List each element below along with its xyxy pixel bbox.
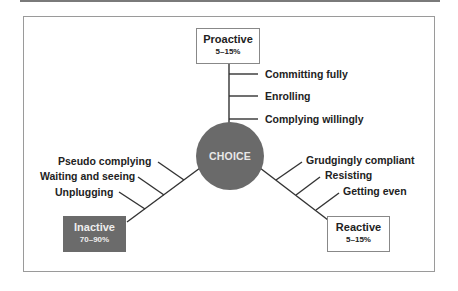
inactive-item: Waiting and seeing [40, 170, 135, 182]
inactive-percent: 70–90% [64, 234, 125, 245]
proactive-item: Enrolling [265, 90, 311, 102]
proactive-item: Committing fully [265, 68, 348, 80]
reactive-percent: 5–15% [328, 234, 389, 245]
inactive-box: Inactive 70–90% [63, 216, 126, 252]
reactive-title: Reactive [328, 221, 389, 234]
reactive-item: Getting even [343, 185, 407, 197]
reactive-box: Reactive 5–15% [327, 216, 390, 252]
proactive-title: Proactive [197, 33, 259, 46]
inactive-title: Inactive [64, 221, 125, 234]
choice-label: CHOICE [209, 150, 251, 162]
proactive-item: Complying willingly [265, 113, 364, 125]
proactive-box: Proactive 5–15% [196, 28, 260, 64]
reactive-item: Grudgingly compliant [306, 154, 415, 166]
inactive-item: Pseudo complying [58, 155, 151, 167]
choice-circle: CHOICE [196, 122, 264, 190]
reactive-item: Resisting [325, 169, 372, 181]
proactive-percent: 5–15% [197, 46, 259, 57]
inactive-item: Unplugging [55, 186, 113, 198]
